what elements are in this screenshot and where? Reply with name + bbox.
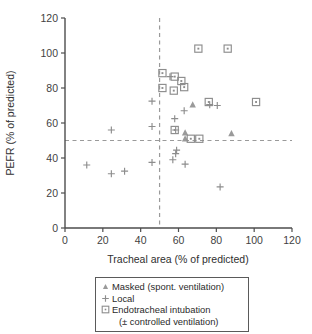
svg-text:80: 80 — [46, 82, 58, 94]
series — [159, 45, 260, 142]
svg-text:20: 20 — [97, 234, 109, 246]
scatter-plot: 020406080100120020406080100120 Tracheal … — [0, 0, 312, 272]
legend-item-label: Local — [111, 293, 134, 305]
figure: 020406080100120020406080100120 Tracheal … — [0, 0, 312, 334]
legend-item: Local — [100, 293, 244, 305]
legend-item-label: Masked (spont. ventilation) — [111, 281, 224, 293]
svg-text:20: 20 — [46, 187, 58, 199]
svg-text:80: 80 — [210, 234, 222, 246]
legend: Masked (spont. ventilation) Local Endotr… — [95, 277, 249, 332]
axes — [61, 18, 292, 232]
legend-continuation: (± controlled ventilation) — [100, 316, 244, 328]
y-axis-label: PEFR (% of predicted) — [4, 70, 16, 175]
series — [83, 73, 223, 190]
svg-text:100: 100 — [40, 47, 58, 59]
svg-text:120: 120 — [283, 234, 301, 246]
svg-text:60: 60 — [46, 117, 58, 129]
svg-text:40: 40 — [46, 152, 58, 164]
plus-icon — [100, 293, 111, 304]
square-dot-icon — [100, 304, 111, 315]
legend-item-label: Endotracheal intubation — [111, 304, 211, 316]
svg-text:120: 120 — [40, 12, 58, 24]
svg-text:0: 0 — [52, 222, 58, 234]
triangle-icon — [100, 281, 111, 292]
reference-lines — [65, 18, 292, 228]
svg-text:60: 60 — [173, 234, 185, 246]
svg-text:40: 40 — [135, 234, 147, 246]
legend-item: Endotracheal intubation — [100, 304, 244, 316]
svg-text:0: 0 — [62, 234, 68, 246]
x-axis-label: Tracheal area (% of predicted) — [107, 253, 248, 265]
svg-text:100: 100 — [245, 234, 263, 246]
data-markers — [83, 45, 259, 190]
legend-item: Masked (spont. ventilation) — [100, 281, 244, 293]
